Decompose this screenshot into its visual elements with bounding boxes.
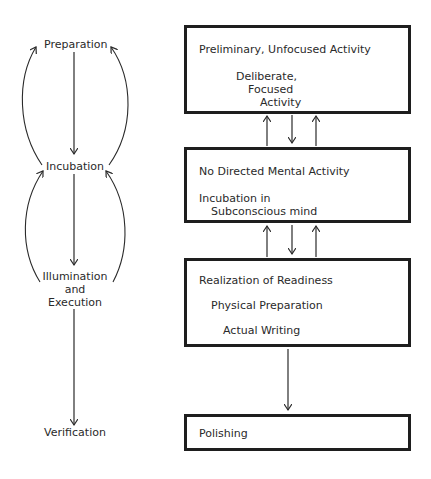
curve-right-incubation-to-prep [109, 47, 128, 165]
box1-line2: Deliberate, [236, 70, 297, 83]
box4-line1: Polishing [199, 427, 248, 440]
box-preparation-activities: Preliminary, Unfocused Activity Delibera… [184, 25, 411, 114]
box1-line3: Focused [248, 83, 293, 96]
stage-illumination-line2: and [40, 283, 110, 296]
box2-line1: No Directed Mental Activity [199, 165, 350, 178]
curve-right-illum-to-incubation [106, 171, 125, 282]
box2-line3: Subconscious mind [211, 205, 317, 218]
stage-illumination-line1: Illumination [40, 270, 110, 283]
curve-left-illum-to-incubation [25, 171, 43, 282]
box3-line3: Actual Writing [223, 324, 300, 337]
box3-line1: Realization of Readiness [199, 274, 333, 287]
curve-left-incubation-to-prep [22, 47, 42, 165]
box-polishing: Polishing [184, 414, 411, 451]
box-execution-activities: Realization of Readiness Physical Prepar… [184, 258, 411, 347]
box1-line4: Activity [260, 96, 301, 109]
box2-line2: Incubation in [199, 192, 271, 205]
box1-line1: Preliminary, Unfocused Activity [199, 43, 371, 56]
box-incubation-activities: No Directed Mental Activity Incubation i… [184, 147, 411, 223]
box3-line2: Physical Preparation [211, 299, 323, 312]
stage-illumination-line3: Execution [40, 296, 110, 309]
stage-verification: Verification [40, 426, 110, 439]
stage-incubation: Incubation [44, 160, 106, 173]
stage-preparation: Preparation [44, 38, 106, 51]
